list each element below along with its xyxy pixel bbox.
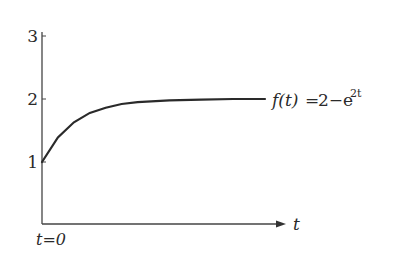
function-label-exponent: 2t: [350, 87, 362, 100]
function-label: f(t) = 2−e 2t: [270, 87, 362, 110]
chart-canvas: 3 2 1 t t=0 f(t) = 2−e 2t: [0, 0, 397, 267]
x-axis-label: t: [293, 214, 300, 234]
origin-label: t=0: [36, 230, 66, 249]
y-tick-label-3: 3: [27, 26, 38, 46]
y-tick-label-2: 2: [27, 89, 38, 109]
function-label-lhs: f(t): [270, 90, 298, 110]
y-tick-label-1: 1: [27, 152, 38, 172]
function-curve: [42, 99, 265, 162]
x-axis-arrowhead-icon: [276, 221, 286, 228]
function-label-rhs: 2−e: [318, 90, 353, 110]
